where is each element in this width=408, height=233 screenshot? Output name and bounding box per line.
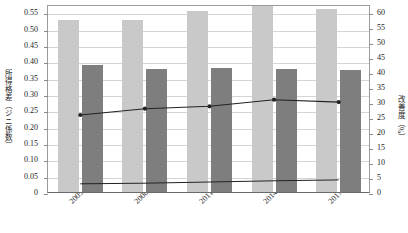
y-axis-right-tick-label: 40 <box>377 68 397 78</box>
y-axis-left-tick-label: 0.30 <box>12 90 38 100</box>
y-axis-right-tick-label: 25 <box>377 113 397 123</box>
y-axis-right-tick-label: 35 <box>377 83 397 93</box>
y-axis-right-tick <box>369 194 373 195</box>
y-axis-right-tick-label: 0 <box>377 188 397 198</box>
line-marker <box>272 98 276 102</box>
y-axis-right-tick-label: 60 <box>377 8 397 18</box>
y-axis-left-tick-label: 0.40 <box>12 57 38 67</box>
y-axis-left-tick <box>44 194 48 195</box>
y-axis-left-tick-label: 0.35 <box>12 74 38 84</box>
y-axis-left-tick-label: 0.50 <box>12 25 38 35</box>
y-axis-right-tick-label: 15 <box>377 143 397 153</box>
line-series-layer <box>48 6 371 194</box>
line-marker <box>207 104 211 108</box>
y-axis-left-title: 所得格差（ジニ係数） <box>1 44 12 174</box>
y-axis-left-tick-label: 0.55 <box>12 8 38 18</box>
plot-area <box>47 5 370 193</box>
income-inequality-chart: 所得格差（ジニ係数） 改善度（%） 00.050.100.150.200.250… <box>0 0 408 233</box>
y-axis-left-tick-label: 0.25 <box>12 106 38 116</box>
line-marker <box>78 113 82 117</box>
y-axis-left-tick-label: 0.10 <box>12 155 38 165</box>
y-axis-left-tick-label: 0.45 <box>12 41 38 51</box>
y-axis-right-tick-label: 55 <box>377 23 397 33</box>
y-axis-right-tick-label: 10 <box>377 158 397 168</box>
y-axis-right-tick-label: 20 <box>377 128 397 138</box>
y-axis-right-tick-label: 50 <box>377 38 397 48</box>
y-axis-left-tick-label: 0.05 <box>12 172 38 182</box>
y-axis-left-tick-label: 0.15 <box>12 139 38 149</box>
y-axis-right-tick-label: 30 <box>377 98 397 108</box>
y-axis-right-tick-label: 5 <box>377 173 397 183</box>
y-axis-left-tick-label: 0 <box>12 188 38 198</box>
y-axis-left-tick-label: 0.20 <box>12 123 38 133</box>
line-marker <box>337 100 341 104</box>
line-improvement-other <box>80 180 338 184</box>
y-axis-right-tick-label: 45 <box>377 53 397 63</box>
line-marker <box>143 107 147 111</box>
